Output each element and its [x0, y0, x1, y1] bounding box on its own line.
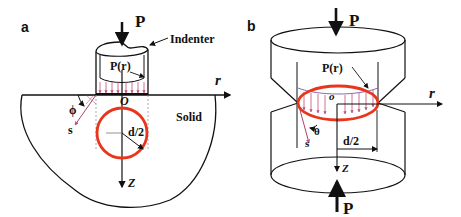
panel-b-label: b: [247, 19, 256, 33]
pressure-pointer-b: [352, 67, 368, 88]
radius-label-b: d/2: [343, 135, 359, 147]
indenter-label: Indenter: [170, 33, 215, 45]
theta-label: θ: [314, 126, 320, 137]
s-label-a: s: [68, 124, 73, 136]
indenter-pointer: [150, 38, 168, 45]
phi-arc: [78, 95, 84, 106]
load-label-top-b: P: [349, 12, 359, 29]
r-axis-label-b: r: [429, 86, 435, 101]
panel-a-label: a: [21, 20, 29, 34]
origin-label-a: O: [120, 95, 129, 107]
z-label-b: Z: [342, 163, 349, 174]
pressure-label-a: P(r): [110, 60, 131, 72]
s-vector-a: [75, 95, 96, 125]
pressure-pointer-a: [130, 72, 144, 77]
pressure-label-b: P(r): [322, 62, 343, 74]
panel-b: [271, 8, 442, 212]
load-label-bottom-b: P: [343, 200, 353, 217]
solid-label: Solid: [176, 111, 202, 123]
radius-label-a: d/2: [128, 126, 144, 138]
indenter-top-curve: [96, 50, 148, 56]
phi-label: ϕ: [69, 104, 77, 116]
top-cylinder-cap: [271, 27, 405, 53]
r-axis-label-a: r: [215, 73, 221, 88]
load-label-a: P: [135, 13, 145, 30]
s-label-b: s: [305, 138, 309, 149]
origin-label-b: o: [329, 91, 335, 102]
z-label-a: Z: [128, 177, 135, 189]
